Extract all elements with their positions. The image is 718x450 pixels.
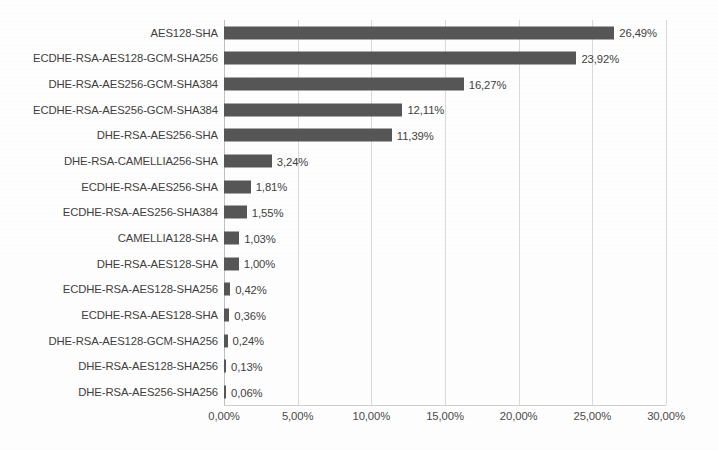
bar-and-value: 12,11%	[224, 103, 444, 116]
bar	[224, 129, 392, 142]
bar	[224, 283, 230, 296]
bar-row: ECDHE-RSA-AES256-SHA3841,55%	[0, 200, 718, 226]
bar-and-value: 0,42%	[224, 283, 267, 296]
bar-and-value: 11,39%	[224, 129, 434, 142]
bar-row: DHE-RSA-AES128-SHA2560,13%	[0, 354, 718, 380]
x-tick-label: 0,00%	[208, 410, 240, 422]
bar-rows: AES128-SHA26,49%ECDHE-RSA-AES128-GCM-SHA…	[0, 0, 718, 405]
bar-value-label: 1,00%	[244, 258, 276, 270]
x-tick-label: 10,00%	[352, 410, 390, 422]
bar-value-label: 3,24%	[277, 155, 309, 167]
category-label: ECDHE-RSA-AES128-SHA256	[63, 283, 218, 295]
bar-and-value: 1,00%	[224, 257, 275, 270]
bar-row: CAMELLIA128-SHA1,03%	[0, 225, 718, 251]
category-label: ECDHE-RSA-AES128-SHA	[81, 309, 218, 321]
bar-and-value: 3,24%	[224, 155, 308, 168]
bar	[224, 334, 228, 347]
x-axis-line	[224, 405, 666, 406]
bar-and-value: 0,13%	[224, 360, 263, 373]
x-tick-label: 5,00%	[282, 410, 314, 422]
x-tick-label: 15,00%	[426, 410, 464, 422]
category-label: ECDHE-RSA-AES256-GCM-SHA384	[33, 104, 218, 116]
bar-value-label: 16,27%	[469, 78, 507, 90]
bar	[224, 232, 239, 245]
bar-value-label: 1,81%	[256, 181, 288, 193]
bar-value-label: 26,49%	[619, 27, 657, 39]
bar	[224, 180, 251, 193]
bar-row: ECDHE-RSA-AES128-SHA0,36%	[0, 302, 718, 328]
bar-and-value: 26,49%	[224, 26, 657, 39]
bar	[224, 360, 226, 373]
bar-row: DHE-RSA-CAMELLIA256-SHA3,24%	[0, 148, 718, 174]
bar-value-label: 0,36%	[234, 309, 266, 321]
bar	[224, 52, 576, 65]
bar	[224, 26, 614, 39]
category-label: ECDHE-RSA-AES128-GCM-SHA256	[33, 52, 218, 64]
bar-and-value: 1,03%	[224, 232, 276, 245]
bar-row: DHE-RSA-AES128-SHA1,00%	[0, 251, 718, 277]
bar-value-label: 23,92%	[581, 52, 619, 64]
category-label: DHE-RSA-AES256-SHA	[97, 129, 218, 141]
bar-value-label: 0,42%	[235, 283, 267, 295]
bar-and-value: 1,81%	[224, 180, 287, 193]
bar-value-label: 0,24%	[233, 335, 265, 347]
bar-row: DHE-RSA-AES128-GCM-SHA2560,24%	[0, 328, 718, 354]
x-tick-label: 20,00%	[500, 410, 538, 422]
category-label: DHE-RSA-AES128-GCM-SHA256	[48, 335, 218, 347]
x-tick-label: 30,00%	[647, 410, 685, 422]
bar-and-value: 0,36%	[224, 309, 266, 322]
bar	[224, 386, 226, 399]
bar	[224, 206, 247, 219]
bar-and-value: 23,92%	[224, 52, 619, 65]
bar-row: AES128-SHA26,49%	[0, 20, 718, 46]
bar-value-label: 12,11%	[407, 104, 444, 116]
bar-chart: AES128-SHA26,49%ECDHE-RSA-AES128-GCM-SHA…	[0, 0, 718, 450]
category-label: DHE-RSA-AES256-SHA256	[78, 386, 218, 398]
bar-row: ECDHE-RSA-AES128-SHA2560,42%	[0, 277, 718, 303]
bar-row: ECDHE-RSA-AES256-GCM-SHA38412,11%	[0, 97, 718, 123]
category-label: ECDHE-RSA-AES256-SHA384	[63, 206, 218, 218]
category-label: DHE-RSA-AES128-SHA256	[78, 360, 218, 372]
bar-and-value: 16,27%	[224, 78, 506, 91]
bar-value-label: 0,13%	[231, 360, 263, 372]
bar-value-label: 11,39%	[397, 129, 434, 141]
category-label: CAMELLIA128-SHA	[118, 232, 218, 244]
bar-and-value: 0,24%	[224, 334, 264, 347]
category-label: AES128-SHA	[151, 27, 218, 39]
bar-row: DHE-RSA-AES256-SHA11,39%	[0, 123, 718, 149]
x-tick-label: 25,00%	[573, 410, 611, 422]
bar	[224, 257, 239, 270]
bar-row: ECDHE-RSA-AES256-SHA1,81%	[0, 174, 718, 200]
category-label: DHE-RSA-AES128-SHA	[97, 258, 218, 270]
bar-value-label: 1,55%	[252, 206, 284, 218]
bar	[224, 103, 402, 116]
bar	[224, 155, 272, 168]
bar-value-label: 1,03%	[244, 232, 276, 244]
bar-and-value: 1,55%	[224, 206, 283, 219]
bar	[224, 78, 464, 91]
x-axis-tick-labels: 0,00%5,00%10,00%15,00%20,00%25,00%30,00%	[0, 410, 718, 432]
bar-row: DHE-RSA-AES256-SHA2560,06%	[0, 379, 718, 405]
bar-row: DHE-RSA-AES256-GCM-SHA38416,27%	[0, 71, 718, 97]
category-label: DHE-RSA-AES256-GCM-SHA384	[48, 78, 218, 90]
bar	[224, 309, 229, 322]
category-label: DHE-RSA-CAMELLIA256-SHA	[64, 155, 218, 167]
category-label: ECDHE-RSA-AES256-SHA	[81, 181, 218, 193]
bar-and-value: 0,06%	[224, 386, 263, 399]
bar-row: ECDHE-RSA-AES128-GCM-SHA25623,92%	[0, 46, 718, 72]
bar-value-label: 0,06%	[231, 386, 263, 398]
